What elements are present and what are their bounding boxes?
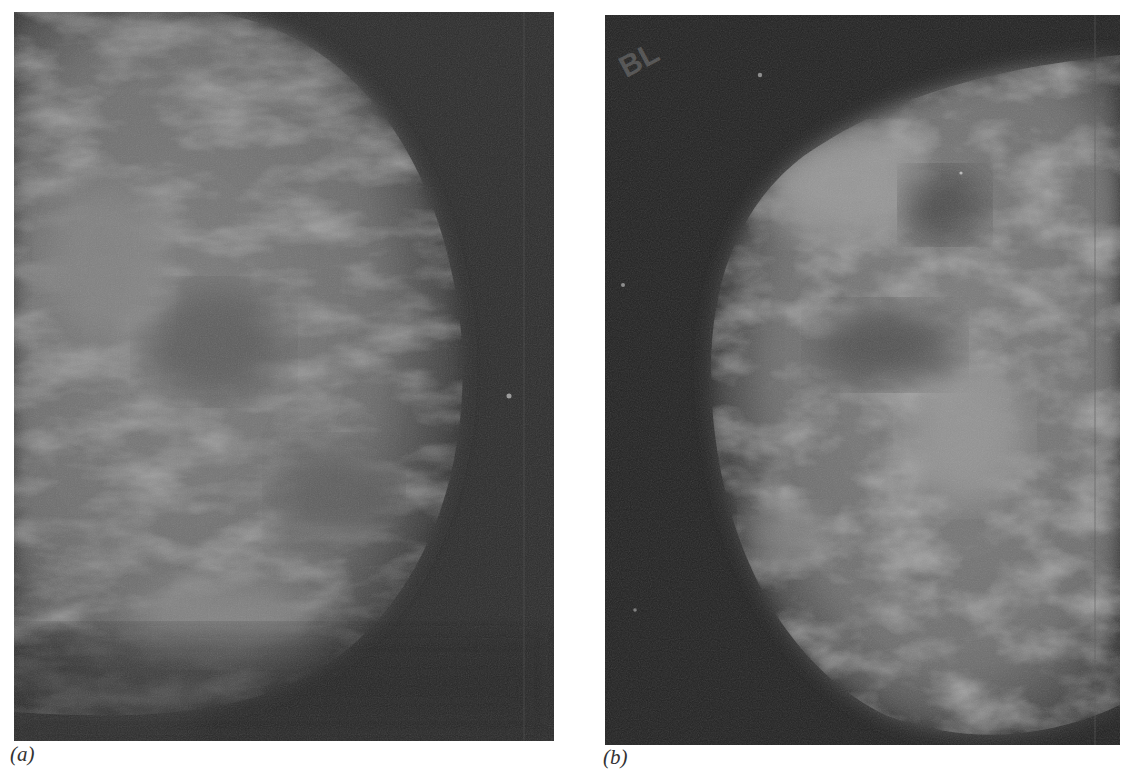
mammogram-image-a xyxy=(14,12,554,741)
panel-label-a: (a) xyxy=(10,742,35,767)
mammogram-a-graphic xyxy=(14,12,554,741)
mammogram-image-b: BL xyxy=(605,15,1120,745)
panel-label-b: (b) xyxy=(603,745,628,770)
mammogram-b-graphic xyxy=(605,15,1120,745)
